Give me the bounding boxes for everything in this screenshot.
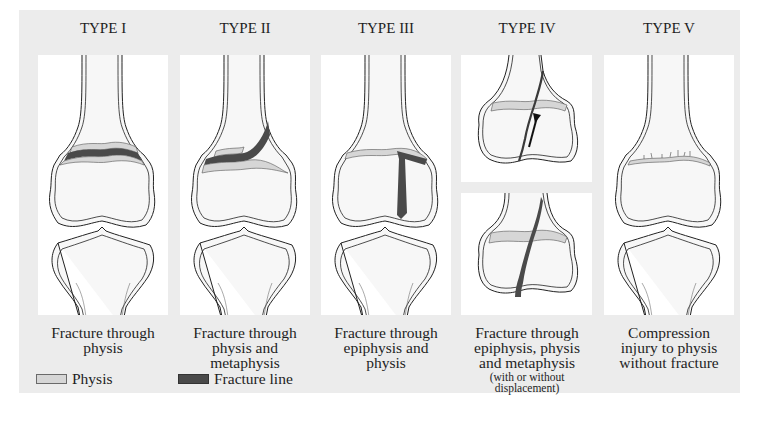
type-2-caption: Fracture through physis and metaphysis [170,325,320,370]
type-4-illustration-top [461,55,592,182]
type-1-title: TYPE I [38,20,168,37]
legend-item-physis: Physis [36,370,113,388]
type-5-title: TYPE V [604,20,734,37]
type-4-caption: Fracture through epiphysis, physis and m… [452,325,602,370]
physis-swatch-icon [36,374,67,384]
type-3-title: TYPE III [321,20,451,37]
type-4-title: TYPE IV [462,20,592,37]
type-3-illustration [321,55,451,315]
type-1-illustration [38,55,168,315]
type-2-title: TYPE II [180,20,310,37]
type-2-illustration [180,55,310,315]
type-5-caption: Compression injury to physis without fra… [594,325,744,370]
fracture-swatch-icon [178,374,209,384]
type-4-illustration-bottom [461,193,592,315]
type-3-caption: Fracture through epiphysis and physis [311,325,461,370]
type-1-caption: Fracture through physis [28,325,178,355]
type-4-subcaption: (with or without displacement) [452,372,602,394]
type-5-illustration [604,55,734,315]
legend-item-fracture-line: Fracture line [178,370,293,388]
